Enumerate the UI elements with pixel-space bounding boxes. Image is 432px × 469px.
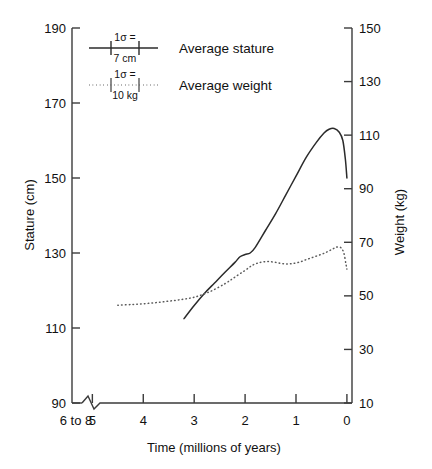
- legend-sigma-value-stature: 7 cm: [114, 52, 137, 64]
- chart-container: 90110130150170190 1030507090110130150 6 …: [0, 0, 432, 469]
- x-tick-label: 6 to 8: [60, 413, 93, 428]
- legend-sigma-label-stature: 1σ =: [114, 31, 135, 43]
- y-right-tick-label: 70: [359, 235, 373, 250]
- y-right-tick-label: 110: [359, 128, 380, 143]
- x-tick-label: 3: [191, 413, 198, 428]
- y-axis-left-title: Stature (cm): [22, 179, 37, 251]
- y-left-tick-label: 110: [45, 321, 66, 336]
- legend-sigma-value-weight: 10 kg: [112, 89, 138, 101]
- y-right-tick-label: 10: [359, 396, 373, 411]
- legend-label-average-weight: Average weight: [179, 78, 272, 93]
- y-right-tick-label: 90: [359, 181, 373, 196]
- y-right-tick-label: 50: [359, 288, 373, 303]
- x-tick-label: 0: [343, 413, 350, 428]
- y-right-tick-label: 150: [359, 21, 381, 36]
- y-right-tick-label: 30: [359, 342, 373, 357]
- x-tick-label: 4: [140, 413, 147, 428]
- x-tick-label: 2: [241, 413, 248, 428]
- y-left-tick-label: 90: [52, 396, 66, 411]
- x-tick-label: 5: [89, 413, 96, 428]
- y-left-tick-label: 150: [44, 171, 66, 186]
- y-left-tick-label: 190: [44, 21, 66, 36]
- legend-label-average-stature: Average stature: [179, 41, 274, 56]
- x-axis-title: Time (millions of years): [147, 440, 281, 455]
- y-axis-right-title: Weight (kg): [392, 189, 407, 255]
- evolution-stature-weight-chart: 90110130150170190 1030507090110130150 6 …: [0, 0, 432, 469]
- legend-sigma-label-weight: 1σ =: [114, 68, 135, 80]
- y-left-tick-label: 170: [44, 96, 66, 111]
- y-right-tick-label: 130: [359, 74, 381, 89]
- x-tick-label: 1: [292, 413, 299, 428]
- y-left-tick-label: 130: [44, 246, 66, 261]
